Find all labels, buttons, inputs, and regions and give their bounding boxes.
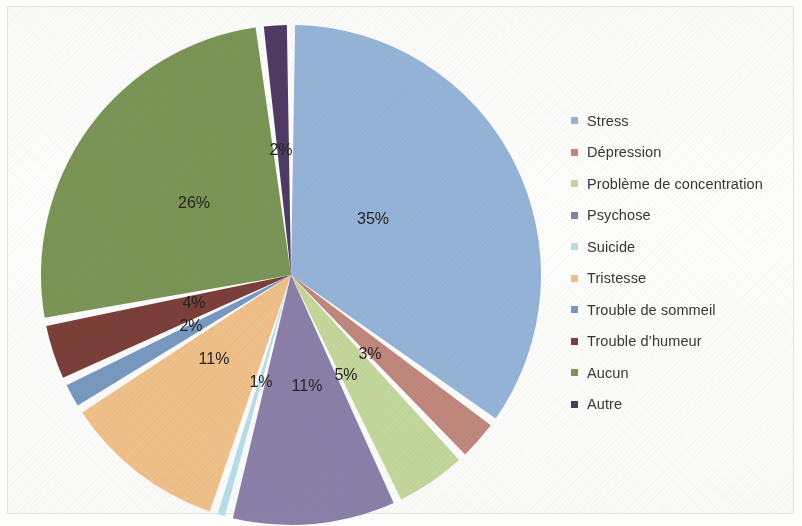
pie-slice-label: 35% xyxy=(357,210,389,227)
legend-item-label: Autre xyxy=(587,396,622,412)
legend-item-label: Dépression xyxy=(587,144,661,160)
legend-item-label: Stress xyxy=(587,113,629,129)
legend-item-trouble-d-humeur[interactable]: Trouble d’humeur xyxy=(571,326,802,358)
pie-slices xyxy=(41,25,541,525)
legend-item-autre[interactable]: Autre xyxy=(571,389,802,421)
pie-slice-label: 11% xyxy=(292,377,323,394)
legend-swatch-icon xyxy=(571,212,578,219)
legend-item-stress[interactable]: Stress xyxy=(571,105,802,137)
legend-item-depression[interactable]: Dépression xyxy=(571,137,802,169)
pie-slice-label: 5% xyxy=(334,366,357,383)
legend-swatch-icon xyxy=(571,180,578,187)
pie-slice[interactable] xyxy=(41,28,291,318)
pie-chart-svg: 35%3%5%11%1%11%2%4%26%2% xyxy=(8,7,548,526)
legend-item-aucun[interactable]: Aucun xyxy=(571,357,802,389)
legend-item-psychose[interactable]: Psychose xyxy=(571,200,802,232)
legend-swatch-icon xyxy=(571,369,578,376)
chart-legend: Stress Dépression Problème de concentrat… xyxy=(571,105,802,420)
legend-item-label: Psychose xyxy=(587,207,651,223)
legend-swatch-icon xyxy=(571,401,578,408)
legend-swatch-icon xyxy=(571,149,578,156)
legend-swatch-icon xyxy=(571,306,578,313)
pie-slice-label: 4% xyxy=(182,294,205,311)
figure-frame: 35%3%5%11%1%11%2%4%26%2% Stress Dépressi… xyxy=(7,6,794,514)
legend-item-label: Problème de concentration xyxy=(587,176,763,192)
pie-slice-label: 11% xyxy=(199,350,230,367)
legend-swatch-icon xyxy=(571,275,578,282)
legend-item-label: Trouble d’humeur xyxy=(587,333,702,349)
pie-slice-label: 2% xyxy=(269,141,292,158)
legend-item-label: Trouble de sommeil xyxy=(587,302,716,318)
legend-item-label: Aucun xyxy=(587,365,629,381)
pie-slice-label: 1% xyxy=(249,373,272,390)
pie-slice-label: 26% xyxy=(178,194,210,211)
pie-slice-label: 3% xyxy=(358,345,381,362)
legend-swatch-icon xyxy=(571,243,578,250)
legend-item-tristesse[interactable]: Tristesse xyxy=(571,263,802,295)
legend-item-label: Suicide xyxy=(587,239,635,255)
legend-swatch-icon xyxy=(571,117,578,124)
legend-item-suicide[interactable]: Suicide xyxy=(571,231,802,263)
legend-item-label: Tristesse xyxy=(587,270,646,286)
legend-item-trouble-de-sommeil[interactable]: Trouble de sommeil xyxy=(571,294,802,326)
legend-item-probleme-de-concentration[interactable]: Problème de concentration xyxy=(571,168,802,200)
pie-chart-area: 35%3%5%11%1%11%2%4%26%2% xyxy=(8,7,548,526)
legend-swatch-icon xyxy=(571,338,578,345)
pie-slice-label: 2% xyxy=(179,317,202,334)
